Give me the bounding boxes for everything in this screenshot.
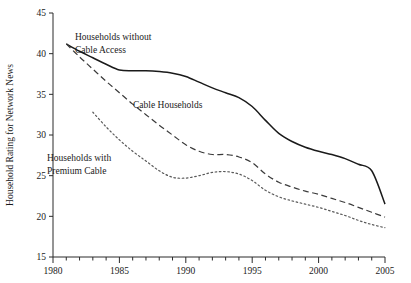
y-axis-tick-label: 25 — [37, 171, 47, 181]
line-chart: 15202530354045 198019851990199520002005 … — [0, 0, 411, 283]
x-axis-tick-label: 1985 — [110, 266, 129, 276]
x-axis-tick-label: 1995 — [243, 266, 262, 276]
x-axis-tick-label: 2000 — [309, 266, 328, 276]
y-axis-tick-label: 30 — [37, 130, 47, 140]
chart-background — [0, 0, 411, 283]
x-axis-tick-label: 1980 — [44, 266, 63, 276]
y-axis-tick-label: 20 — [37, 212, 47, 222]
chart-container: 15202530354045 198019851990199520002005 … — [0, 0, 411, 283]
y-axis-tick-label: 35 — [37, 90, 47, 100]
y-axis-tick-label: 15 — [37, 252, 47, 262]
y-axis-title: Household Rating for Network News — [5, 64, 15, 206]
x-axis-tick-label: 1990 — [176, 266, 195, 276]
y-axis-tick-label: 40 — [37, 49, 47, 59]
x-axis-tick-label: 2005 — [376, 266, 395, 276]
y-axis-tick-label: 45 — [37, 8, 47, 18]
annotation-cable-households: Cable Households — [133, 100, 203, 110]
